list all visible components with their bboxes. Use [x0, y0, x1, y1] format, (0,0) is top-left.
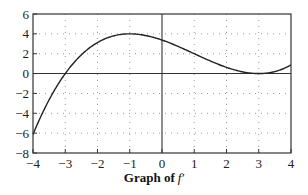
x-axis-tick-labels: −4−3−2−101234 [26, 156, 295, 171]
x-tick-label: 3 [256, 156, 263, 171]
y-tick-label: 6 [23, 7, 30, 22]
axes [33, 14, 291, 153]
y-tick-label: 4 [23, 26, 30, 41]
y-axis-tick-labels: 6420−2−4−6−8 [15, 7, 29, 161]
y-tick-label: −8 [15, 146, 29, 161]
x-tick-label: 0 [159, 156, 166, 171]
x-tick-label: −1 [123, 156, 137, 171]
chart-area: −4−3−2−101234 6420−2−4−6−8 [0, 0, 308, 195]
y-tick-label: −4 [15, 106, 29, 121]
x-tick-label: −2 [91, 156, 105, 171]
y-tick-label: −6 [15, 126, 29, 141]
x-tick-label: 2 [223, 156, 230, 171]
y-tick-label: 0 [23, 66, 30, 81]
y-tick-label: 2 [23, 46, 30, 61]
x-tick-label: 1 [191, 156, 198, 171]
y-tick-label: −2 [15, 86, 29, 101]
caption-text: Graph of [124, 170, 175, 185]
chart-caption: Graph off′ [0, 170, 308, 186]
x-tick-label: −3 [58, 156, 72, 171]
x-tick-label: 4 [288, 156, 295, 171]
caption-function: f′ [178, 170, 184, 185]
